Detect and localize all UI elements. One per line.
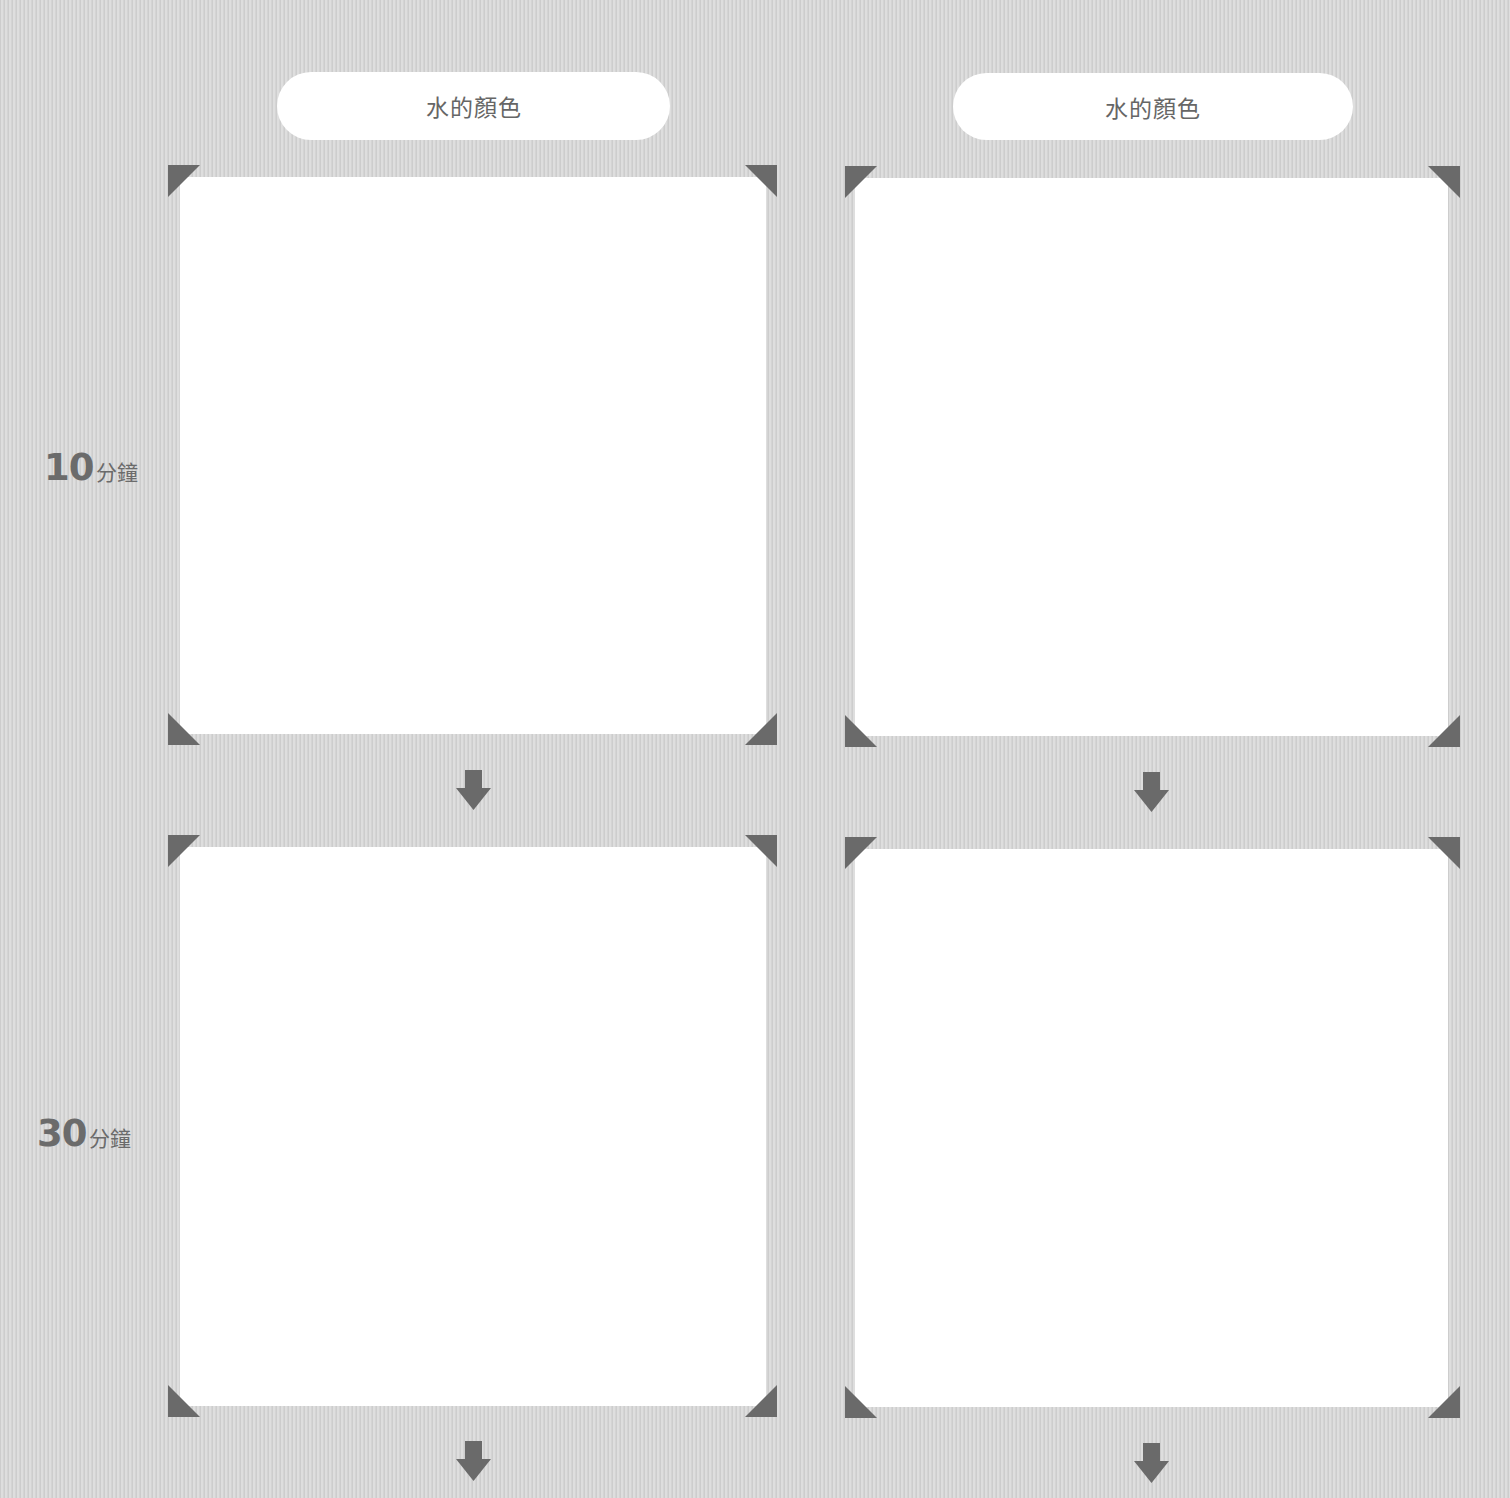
observation-box-10min-col2[interactable]: [845, 166, 1460, 747]
row-label-30-minutes: 30 分鐘: [37, 1112, 131, 1155]
column-header-2: 水的顏色: [953, 73, 1353, 140]
drawing-area[interactable]: [180, 177, 766, 734]
triangle-corner-icon: [168, 835, 200, 867]
column-header-1-label: 水的顏色: [426, 89, 522, 123]
arrow-down-icon: [456, 770, 492, 811]
observation-box-30min-col2[interactable]: [845, 837, 1460, 1418]
time-value: 30: [37, 1112, 87, 1155]
drawing-area[interactable]: [855, 178, 1448, 736]
triangle-corner-icon: [1428, 837, 1460, 869]
arrow-down-icon: [456, 1441, 492, 1482]
triangle-corner-icon: [1428, 166, 1460, 198]
triangle-corner-icon: [168, 713, 200, 745]
triangle-corner-icon: [845, 1386, 877, 1418]
drawing-area[interactable]: [180, 847, 766, 1406]
column-header-2-label: 水的顏色: [1105, 90, 1201, 124]
triangle-corner-icon: [845, 166, 877, 198]
time-value: 10: [44, 446, 94, 489]
triangle-corner-icon: [745, 835, 777, 867]
triangle-corner-icon: [168, 1385, 200, 1417]
triangle-corner-icon: [845, 837, 877, 869]
drawing-area[interactable]: [855, 849, 1448, 1407]
arrow-down-icon: [1134, 1443, 1170, 1484]
row-label-10-minutes: 10 分鐘: [44, 446, 138, 489]
triangle-corner-icon: [1428, 1386, 1460, 1418]
triangle-corner-icon: [1428, 715, 1460, 747]
triangle-corner-icon: [745, 165, 777, 197]
observation-box-10min-col1[interactable]: [168, 165, 777, 745]
triangle-corner-icon: [745, 1385, 777, 1417]
triangle-corner-icon: [745, 713, 777, 745]
triangle-corner-icon: [168, 165, 200, 197]
arrow-down-icon: [1134, 772, 1170, 813]
observation-box-30min-col1[interactable]: [168, 835, 777, 1417]
column-header-1: 水的顏色: [277, 72, 670, 140]
time-unit: 分鐘: [96, 456, 138, 486]
time-unit: 分鐘: [89, 1122, 131, 1152]
triangle-corner-icon: [845, 715, 877, 747]
